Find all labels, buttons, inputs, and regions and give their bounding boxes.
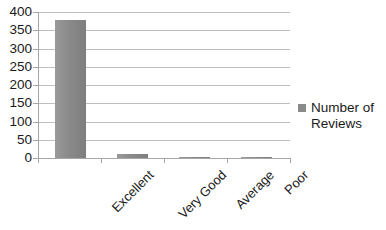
y-tick-50: [33, 140, 38, 141]
x-tick-1: [101, 158, 102, 163]
y-axis-label-350: 350: [0, 23, 32, 37]
y-tick-250: [33, 67, 38, 68]
y-axis-label-400: 400: [0, 5, 32, 19]
x-axis-label-poor: Poor: [282, 168, 311, 197]
legend: Number of Reviews: [298, 100, 384, 132]
bar-poor[interactable]: [241, 157, 272, 158]
x-tick-0: [38, 158, 39, 163]
y-axis-label-250: 250: [0, 60, 32, 74]
x-tick-4: [290, 158, 291, 163]
y-tick-400: [33, 12, 38, 13]
legend-swatch-icon: [298, 104, 306, 112]
bar-excellent[interactable]: [55, 20, 86, 158]
y-axis-line: [38, 12, 39, 159]
y-tick-350: [33, 30, 38, 31]
bar-average[interactable]: [179, 157, 210, 158]
bar-very-good[interactable]: [117, 154, 148, 158]
legend-label-number-of-reviews: Number of Reviews: [311, 100, 384, 132]
y-axis-label-0: 0: [0, 151, 32, 165]
y-axis-label-200: 200: [0, 78, 32, 92]
y-tick-100: [33, 122, 38, 123]
x-axis-label-very-good: Very Good: [176, 168, 229, 221]
y-tick-150: [33, 103, 38, 104]
bar-chart: 400 350 300 250 200 150 100 50 0 Excelle…: [0, 0, 386, 230]
y-axis-label-150: 150: [0, 96, 32, 110]
y-tick-200: [33, 85, 38, 86]
y-axis-label-50: 50: [0, 133, 32, 147]
x-tick-2: [164, 158, 165, 163]
x-tick-3: [227, 158, 228, 163]
y-axis-label-300: 300: [0, 42, 32, 56]
gridline-400: [38, 12, 290, 13]
x-axis-label-average: Average: [233, 168, 276, 211]
y-axis-label-100: 100: [0, 115, 32, 129]
x-axis-label-excellent: Excellent: [109, 168, 155, 214]
plot-area: [38, 12, 290, 158]
y-tick-300: [33, 49, 38, 50]
